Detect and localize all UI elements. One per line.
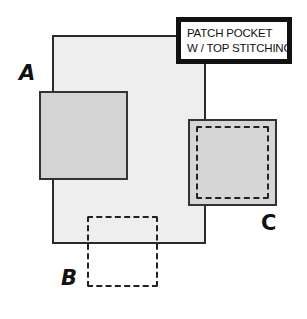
label-c: C — [261, 213, 276, 234]
title-line-2: W / TOP STITCHING — [187, 41, 287, 56]
label-b: B — [61, 268, 77, 289]
title-line-1: PATCH POCKET — [187, 26, 287, 41]
pocket-c-top-stitching — [196, 126, 269, 199]
pocket-b-dashed-outline — [87, 216, 158, 287]
title-box: PATCH POCKET W / TOP STITCHING — [176, 17, 292, 64]
label-a: A — [19, 63, 35, 84]
pocket-a — [39, 91, 128, 180]
